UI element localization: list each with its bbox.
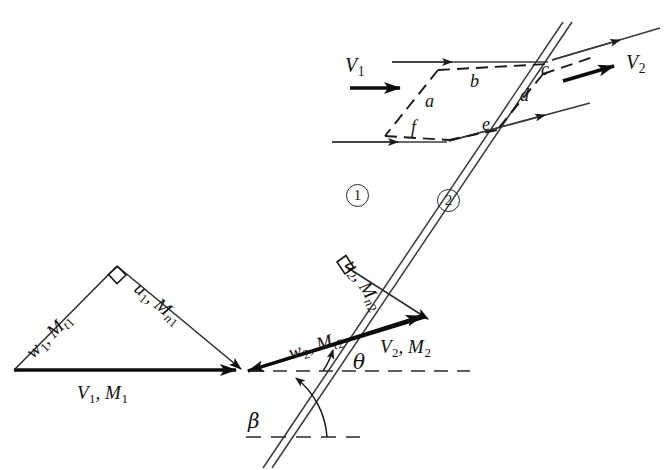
theta-label: θ [353,352,365,372]
cv-face-c [543,56,596,74]
upper-streamline-downstream-arrow [552,40,620,60]
right-angle-marker-upstream [109,267,127,284]
v2-triangle-label: V2, M2 [380,337,431,360]
cv-label-f: f [411,118,416,136]
region-label-1: 1 [346,184,369,207]
v2-freestream-label: V2 [626,52,646,75]
v2-freestream-arrow [563,66,614,81]
cv-label-c: c [541,60,549,78]
upstream-velocity-triangle [14,266,241,370]
v1-triangle-label: V1, M1 [77,383,128,406]
beta-angle-arc [296,378,327,437]
cv-label-a: a [425,92,434,110]
region-label-2: 2 [437,189,460,212]
v1-freestream-label: V1 [345,55,365,78]
cv-face-f [385,136,449,140]
cv-label-b: b [470,72,479,90]
cv-label-e: e [482,115,490,133]
cv-label-d: d [520,86,529,104]
control-volume-group [332,28,660,142]
oblique-shock-diagram: V1 V2 a b c d e f 1 2 w1, Mt1 u1, Mn1 V1… [0,0,669,470]
beta-label: β [248,411,260,431]
